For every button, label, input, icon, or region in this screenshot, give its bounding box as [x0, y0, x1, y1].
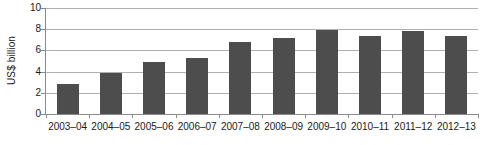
bar-slot — [132, 8, 175, 114]
x-axis-tick-label: 2003–04 — [48, 120, 87, 134]
x-axis-tick-mark — [478, 114, 479, 118]
y-axis-tick-mark — [41, 72, 45, 73]
x-axis-tick-label: 2009–10 — [307, 120, 346, 134]
x-axis-tick-label: 2010–11 — [351, 120, 389, 134]
x-axis-tick-label: 2006–07 — [178, 120, 217, 134]
bar[interactable] — [143, 62, 165, 114]
y-axis-tick-label: 10 — [30, 3, 41, 13]
x-axis-tick-mark — [132, 114, 133, 118]
bar[interactable] — [100, 73, 122, 114]
y-axis-title: US$ billion — [0, 0, 22, 120]
bars-layer — [46, 8, 478, 114]
x-axis-tick-mark — [348, 114, 349, 118]
bar-slot — [435, 8, 478, 114]
bar[interactable] — [186, 58, 208, 114]
bar[interactable] — [359, 36, 381, 114]
x-axis-tick-mark — [305, 114, 306, 118]
bar[interactable] — [57, 84, 79, 114]
y-axis-tick-mark — [41, 29, 45, 30]
y-axis-tick-mark — [41, 8, 45, 9]
y-axis-tick-mark — [41, 93, 45, 94]
bar-slot — [46, 8, 89, 114]
bar[interactable] — [229, 42, 251, 114]
x-axis-tick-label: 2008–09 — [264, 120, 303, 134]
x-axis-tick-mark — [46, 114, 47, 118]
x-axis-tick-mark — [392, 114, 393, 118]
plot-area — [46, 8, 478, 114]
y-axis-tick-labels: 0246810 — [22, 8, 44, 114]
bar[interactable] — [316, 30, 338, 114]
bar-slot — [219, 8, 262, 114]
x-axis-tick-labels: 2003–042004–052005–062006–072007–082008–… — [46, 120, 478, 136]
y-axis-title-label: US$ billion — [6, 36, 17, 85]
x-axis-tick-mark — [89, 114, 90, 118]
bar[interactable] — [445, 36, 467, 114]
x-axis-tick-label: 2012–13 — [437, 120, 476, 134]
bar-slot — [89, 8, 132, 114]
y-axis-tick-mark — [41, 114, 45, 115]
x-axis-tick-label: 2011–12 — [394, 120, 432, 134]
x-axis-tick-mark — [435, 114, 436, 118]
x-axis-tick-mark — [176, 114, 177, 118]
x-axis-tick-marks — [46, 114, 478, 118]
bar-chart: US$ billion 0246810 2003–042004–052005–0… — [0, 0, 482, 145]
x-axis-tick-label: 2007–08 — [221, 120, 260, 134]
bar-slot — [392, 8, 435, 114]
y-axis-tick-mark — [41, 50, 45, 51]
x-axis-tick-label: 2004–05 — [91, 120, 130, 134]
x-axis-tick-label: 2005–06 — [135, 120, 174, 134]
x-axis-tick-mark — [262, 114, 263, 118]
bar-slot — [176, 8, 219, 114]
bar[interactable] — [402, 31, 424, 114]
bar-slot — [305, 8, 348, 114]
x-axis-tick-mark — [219, 114, 220, 118]
bar[interactable] — [273, 38, 295, 114]
bar-slot — [348, 8, 391, 114]
bar-slot — [262, 8, 305, 114]
